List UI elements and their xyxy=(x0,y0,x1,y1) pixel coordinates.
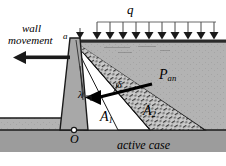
force-label-subscript: an xyxy=(168,73,177,83)
bottom-margin xyxy=(0,152,226,166)
retaining-wall-active-case-figure: q wall movement a λ δ Pan A1 A2 O active… xyxy=(0,0,226,166)
wedge-a1-base: A xyxy=(100,109,109,124)
soil-lower-band xyxy=(0,130,226,152)
wedge-a1-subscript: 1 xyxy=(109,115,113,125)
force-label-pan: Pan xyxy=(159,68,176,83)
wall-movement-label-line1: wall xyxy=(22,23,41,34)
apex-label-a: a xyxy=(63,32,68,41)
top-ground-surface xyxy=(70,40,226,43)
wedge-a2-subscript: 2 xyxy=(152,109,156,119)
figure-caption-active-case: active case xyxy=(117,139,170,151)
wedge-a2-label: A2 xyxy=(143,104,156,119)
wall-movement-label-line2: movement xyxy=(8,35,53,46)
angle-delta-label: δ xyxy=(117,80,122,90)
wedge-a1-label: A1 xyxy=(100,110,113,125)
angle-lambda-label: λ xyxy=(78,89,83,100)
origin-label-o: O xyxy=(70,133,79,145)
wedge-a2-base: A xyxy=(143,103,152,118)
force-label-base: P xyxy=(159,67,168,82)
surcharge-label-q: q xyxy=(127,3,134,16)
